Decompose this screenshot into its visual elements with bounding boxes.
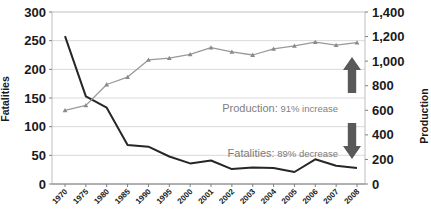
x-axis-tick-label: 1995 [155,187,174,206]
x-axis-tick-label: 2007 [322,187,341,206]
right-axis-tick-label: 600 [372,103,394,118]
plot-area: 3002502001501005001,4001,2001,0008006004… [0,0,431,210]
x-axis-tick-label: 2006 [301,187,320,206]
fatalities-production-chart: 3002502001501005001,4001,2001,0008006004… [0,0,431,210]
production-annotation-rest: 91% increase [278,103,338,114]
production-increase-arrow-icon [343,57,361,93]
right-axis-tick-label: 0 [372,177,379,192]
right-axis-tick-label: 1,200 [372,29,405,44]
right-axis-tick-label: 400 [372,127,394,142]
x-axis-tick-label: 2004 [259,187,278,206]
right-axis-tick-label: 200 [372,152,394,167]
left-axis-tick-label: 250 [24,33,46,48]
x-axis-tick-label: 2000 [176,187,195,206]
right-axis-tick-label: 800 [372,78,394,93]
left-axis-title: Fatalities [0,67,11,131]
x-axis-tick-label: 2001 [196,187,215,206]
x-axis-tick-label: 1970 [50,187,69,206]
right-axis-title: Production [418,87,430,145]
left-axis-tick-label: 50 [32,148,46,163]
x-axis-tick-label: 1985 [113,187,132,206]
fatalities-annotation-lead: Fatalities: [228,147,275,159]
production-annotation-lead: Production: [222,102,278,114]
right-axis-tick-label: 1,000 [372,54,405,69]
x-axis-tick-label: 1975 [71,187,90,206]
x-axis-tick-label: 2005 [280,187,299,206]
left-axis-tick-label: 150 [24,91,46,106]
x-axis-tick-label: 2003 [238,187,257,206]
x-axis-tick-label: 1990 [134,187,153,206]
fatalities-decrease-arrow-icon [343,123,361,159]
fatalities-annotation-rest: 89% decrease [275,148,338,159]
left-axis-tick-label: 200 [24,62,46,77]
x-axis-tick-label: 2008 [342,187,361,206]
left-axis-tick-label: 100 [24,119,46,134]
x-axis-tick-label: 1980 [92,187,111,206]
fatalities-annotation: Fatalities: 89% decrease [228,143,338,161]
x-axis-tick-label: 2002 [217,187,236,206]
production-annotation: Production: 91% increase [222,98,338,116]
right-axis-tick-label: 1,400 [372,5,405,20]
left-axis-tick-label: 0 [39,177,46,192]
left-axis-tick-label: 300 [24,5,46,20]
